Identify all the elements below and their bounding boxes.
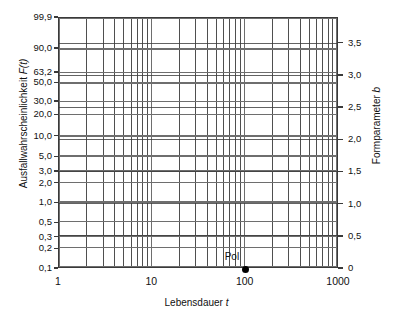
y-tick-label-14: 0,1 — [39, 263, 52, 273]
y-tick-mark-12 — [54, 236, 58, 237]
pol-label: Pol — [225, 251, 239, 262]
y2-tick-label-7: 0 — [348, 263, 353, 273]
y2-tick-mark-4 — [338, 171, 343, 172]
y-tick-label-13: 0,2 — [39, 243, 52, 253]
y-tick-mark-8 — [54, 170, 58, 171]
y2-tick-label-6: 0,5 — [348, 231, 361, 241]
y2-tick-label-4: 1,5 — [348, 166, 361, 176]
y2-tick-label-0: 3,5 — [348, 38, 361, 48]
y2-tick-mark-6 — [338, 235, 343, 236]
y2-tick-label-2: 2,5 — [348, 102, 361, 112]
y-tick-mark-9 — [54, 182, 58, 183]
y-tick-label-8: 3,0 — [39, 166, 52, 176]
y2-axis-title: Formparameter b — [371, 46, 382, 206]
y-axis-title-symbol: F(t) — [18, 59, 29, 75]
y2-tick-label-3: 2,0 — [348, 134, 361, 144]
y-tick-label-12: 0,3 — [39, 232, 52, 242]
y-tick-label-4: 30,0 — [34, 96, 53, 106]
y-tick-mark-1 — [54, 47, 58, 48]
y-tick-label-5: 20,0 — [34, 109, 53, 119]
y-tick-mark-2 — [54, 71, 58, 72]
x-axis-title-symbol: t — [226, 297, 229, 308]
y-tick-mark-13 — [54, 248, 58, 249]
x-tick-label-3: 1000 — [326, 276, 349, 287]
y-tick-label-1: 90,0 — [34, 43, 53, 53]
plot-area: Pol — [58, 17, 338, 268]
y-tick-mark-10 — [54, 202, 58, 203]
y-tick-mark-6 — [54, 135, 58, 136]
pol-marker — [242, 266, 249, 273]
y2-tick-mark-3 — [338, 139, 343, 140]
y-tick-mark-7 — [54, 156, 58, 157]
y2-tick-mark-2 — [338, 106, 343, 107]
y-axis-title-main: Ausfallwahrscheinlichkeit — [18, 74, 29, 188]
y-tick-mark-3 — [54, 82, 58, 83]
y-tick-label-2: 63,2 — [34, 67, 53, 77]
y-tick-label-7: 5,0 — [39, 151, 52, 161]
y2-tick-mark-1 — [338, 74, 343, 75]
y-tick-mark-14 — [54, 267, 58, 268]
x-axis-title: Lebensdauer t — [0, 297, 393, 308]
y2-tick-label-5: 1,0 — [348, 199, 361, 209]
x-tick-label-2: 100 — [236, 276, 254, 287]
y2-tick-mark-0 — [338, 42, 343, 43]
x-tick-label-1: 10 — [145, 276, 157, 287]
y-tick-mark-4 — [54, 100, 58, 101]
weibull-probability-chart: Pol Ausfallwahrscheinlichkeit F(t) Formp… — [0, 0, 393, 317]
x-axis-title-main: Lebensdauer — [165, 297, 226, 308]
y-tick-label-6: 10,0 — [34, 131, 53, 141]
y2-tick-mark-5 — [338, 203, 343, 204]
y-axis-title: Ausfallwahrscheinlichkeit F(t) — [18, 24, 29, 224]
y2-tick-label-1: 3,0 — [348, 70, 361, 80]
x-tick-label-0: 1 — [55, 276, 61, 287]
y-tick-mark-5 — [54, 114, 58, 115]
y-tick-label-3: 50,0 — [34, 77, 53, 87]
y2-tick-mark-7 — [338, 267, 343, 268]
grid-lines — [59, 18, 337, 267]
y-tick-label-0: 99,9 — [34, 12, 53, 22]
y-tick-mark-0 — [54, 16, 58, 17]
y2-axis-title-symbol: b — [371, 87, 382, 93]
y-tick-label-9: 2,0 — [39, 178, 52, 188]
y-tick-label-10: 1,0 — [39, 197, 52, 207]
y-tick-mark-11 — [54, 222, 58, 223]
y-tick-label-11: 0,5 — [39, 217, 52, 227]
y2-axis-title-main: Formparameter — [371, 92, 382, 164]
